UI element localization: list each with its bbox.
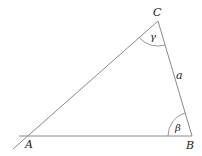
vertex-label-b: B	[185, 139, 194, 152]
angle-label-gamma: γ	[150, 31, 156, 42]
triangle-diagram: C A B a γ β	[0, 0, 202, 156]
vertex-label-a: A	[24, 138, 33, 151]
angle-label-beta: β	[174, 122, 181, 133]
side-label-a: a	[176, 69, 183, 82]
vertex-label-c: C	[153, 6, 162, 19]
side-b	[13, 21, 158, 149]
